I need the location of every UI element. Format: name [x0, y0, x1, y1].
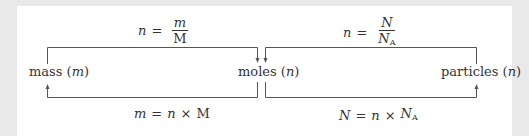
fraction: N NA — [376, 16, 397, 49]
formula-lhs: n — [343, 25, 351, 41]
node-particles-text: particles — [441, 64, 498, 79]
denominator-symbol: N — [378, 31, 389, 46]
arrowhead-up-icon — [46, 84, 50, 89]
formula-term-b: M — [197, 106, 210, 122]
fraction: m M — [171, 16, 188, 45]
formula-equals: = — [151, 23, 162, 39]
arrowhead-up-icon — [475, 84, 479, 89]
fraction-denominator: M — [171, 31, 188, 45]
fraction-numerator: m — [172, 16, 188, 31]
arrow-moles-to-mass — [46, 82, 258, 98]
formula-lhs: N — [339, 108, 350, 124]
node-particles-symbol: n — [508, 64, 516, 79]
node-mass-symbol: m — [72, 64, 84, 79]
formula-term-b: NA — [401, 106, 418, 126]
formula-times: × — [181, 106, 192, 122]
formula-equals: = — [356, 25, 367, 41]
formula-moles-to-mass: m = n × M — [134, 106, 210, 122]
formula-moles-to-particles: N = n × NA — [339, 106, 418, 126]
arrowhead-down-icon — [256, 58, 260, 63]
node-moles: moles (n) — [238, 64, 299, 80]
formula-equals: = — [151, 106, 162, 122]
node-moles-symbol: n — [286, 64, 294, 79]
formula-lhs: n — [138, 23, 146, 39]
arrow-mass-to-moles — [48, 48, 260, 65]
node-mass: mass (m) — [29, 64, 89, 80]
fraction-denominator: NA — [376, 31, 397, 49]
formula-term-a: n — [167, 106, 175, 122]
arrowhead-down-icon — [264, 58, 268, 63]
denominator-subscript: A — [390, 38, 396, 47]
formula-equals: = — [355, 108, 366, 124]
formula-particles-to-moles: n = N NA — [343, 16, 397, 49]
arrow-moles-to-particles — [266, 82, 479, 98]
arrow-particles-to-moles — [264, 48, 477, 65]
node-mass-text: mass — [29, 64, 62, 79]
formula-mass-to-moles: n = m M — [138, 16, 189, 45]
fraction-numerator: N — [379, 16, 394, 31]
formula-lhs: m — [134, 106, 146, 122]
term-b-subscript: A — [412, 113, 418, 122]
node-particles: particles (n) — [441, 64, 521, 80]
node-moles-text: moles — [238, 64, 277, 79]
term-b-symbol: N — [401, 106, 412, 121]
formula-times: × — [385, 108, 396, 124]
formula-term-a: n — [371, 108, 379, 124]
